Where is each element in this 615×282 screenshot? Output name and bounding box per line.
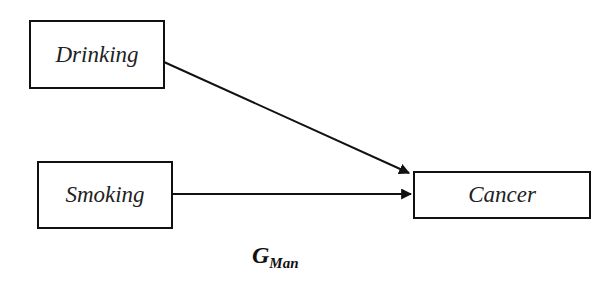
caption-main: G: [252, 242, 269, 268]
graph-caption: GMan: [252, 242, 299, 269]
caption-subscript: Man: [269, 255, 298, 271]
node-smoking-label: Smoking: [65, 182, 144, 208]
node-drinking: Drinking: [29, 20, 165, 89]
node-cancer: Cancer: [413, 171, 591, 219]
node-smoking: Smoking: [37, 161, 173, 229]
edge-drinking-cancer: [164, 62, 409, 173]
node-drinking-label: Drinking: [55, 42, 138, 68]
node-cancer-label: Cancer: [468, 182, 536, 208]
